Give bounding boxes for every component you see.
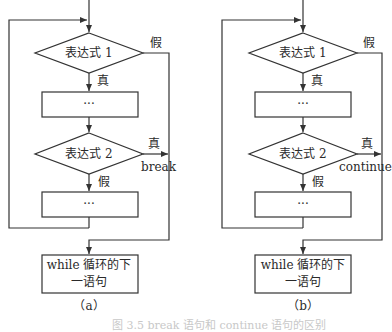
next-stmt-line1-b: while 循环的下	[261, 257, 346, 274]
body1-label-b: ···	[297, 97, 308, 111]
next-stmt-line1-a: while 循环的下	[47, 257, 132, 274]
cond1-true-label-b: 真	[311, 74, 323, 88]
next-stmt-line2-b: 一语句	[261, 274, 346, 291]
cond2-label-a: 表达式 2	[65, 147, 112, 161]
next-stmt-line2-a: 一语句	[47, 274, 132, 291]
cond2-true-label-b: 真	[361, 137, 373, 151]
cond1-label-b: 表达式 1	[279, 46, 326, 60]
cond1-false-label-b: 假	[363, 36, 375, 50]
cond2-true-label-a: 真	[148, 137, 160, 151]
caption-b: （b）	[287, 299, 319, 313]
cond1-label-a: 表达式 1	[65, 46, 112, 60]
next-stmt-b: while 循环的下 一语句	[261, 257, 346, 291]
figure-caption: 图 3.5 break 语句和 continue 语句的区别	[112, 316, 327, 332]
cond2-false-label-b: 假	[312, 175, 324, 189]
cond1-false-label-a: 假	[150, 36, 162, 50]
break-label: break	[141, 160, 176, 174]
cond2-label-b: 表达式 2	[279, 147, 326, 161]
body1-label-a: ···	[83, 97, 94, 111]
cond1-true-label-a: 真	[97, 74, 109, 88]
caption-a: （a）	[73, 299, 104, 313]
body2-label-b: ···	[297, 197, 308, 211]
cond2-false-label-a: 假	[98, 175, 110, 189]
body2-label-a: ···	[83, 197, 94, 211]
continue-label: continue	[339, 160, 392, 174]
next-stmt-a: while 循环的下 一语句	[47, 257, 132, 291]
